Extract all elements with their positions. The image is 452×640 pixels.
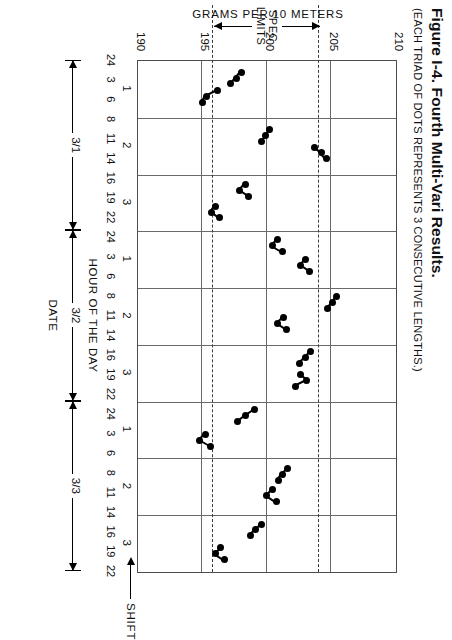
shift-number-1: 1 <box>121 85 133 91</box>
triad-10-dot-1 <box>307 348 314 355</box>
spec-limit-line-upper <box>318 5 319 572</box>
hour-tick-14: 14 <box>105 329 117 341</box>
date-span-label: 3/3 <box>70 474 82 498</box>
triad-12-dot-2 <box>242 412 249 419</box>
hour-tick-5: 14 <box>105 152 117 164</box>
plot-area <box>137 60 397 573</box>
value-gridline-195 <box>202 61 203 572</box>
shift-number-4: 1 <box>121 256 133 262</box>
value-gridline-205 <box>331 61 332 572</box>
y-tick-190: 190 <box>135 32 147 51</box>
shift-number-2: 2 <box>121 142 133 148</box>
hour-tick-8: 22 <box>105 211 117 223</box>
date-span-label: 3/1 <box>70 133 82 157</box>
y-axis-label: GRAMS PER 10 METERS <box>192 8 343 20</box>
date-span-3-1: 3/1 <box>65 60 81 230</box>
triad-3-dot-3 <box>323 155 330 162</box>
triad-9-dot-1 <box>280 314 287 321</box>
hour-tick-7: 19 <box>105 191 117 203</box>
triad-7-dot-2 <box>297 262 304 269</box>
date-span-3-3: 3/3 <box>65 401 81 571</box>
triad-17-dot-3 <box>221 556 228 563</box>
date-span-arrow-right <box>69 393 77 401</box>
shift-number-9: 3 <box>121 539 133 545</box>
triad-0-dot-1 <box>238 69 245 76</box>
hour-tick-13: 11 <box>105 310 117 321</box>
triad-4-dot-3 <box>245 193 252 200</box>
triad-4-dot-1 <box>242 181 249 188</box>
triad-12-dot-1 <box>251 406 258 413</box>
shift-number-6: 3 <box>121 369 133 375</box>
triad-5-dot-2 <box>208 209 215 216</box>
hour-tick-0: 24 <box>105 54 117 66</box>
date-span-arrow-left <box>69 60 77 68</box>
triad-13-dot-3 <box>207 443 214 450</box>
triad-14-dot-3 <box>275 477 282 484</box>
hour-tick-12: 8 <box>105 293 117 299</box>
triad-9-dot-3 <box>283 326 290 333</box>
hour-tick-26: 22 <box>105 565 117 577</box>
triad-9-dot-2 <box>274 320 281 327</box>
hour-tick-1: 3 <box>105 77 117 83</box>
shift-annotation-arrowhead <box>127 557 135 565</box>
date-span-arrow-right <box>69 563 77 571</box>
figure-title: Figure I-4. Fourth Multi-Vari Results. <box>428 8 446 372</box>
date-span-3-2: 3/2 <box>65 230 81 400</box>
figure-subtitle: (EACH TRIAD OF DOTS REPRESENTS 3 CONSECU… <box>412 8 424 372</box>
shift-separator-4 <box>138 288 396 289</box>
hour-tick-25: 19 <box>105 545 117 557</box>
y-tick-205: 205 <box>329 32 341 51</box>
hour-tick-6: 16 <box>105 172 117 184</box>
date-span-label: 3/2 <box>70 303 82 327</box>
spec-limits-arrow-up <box>312 22 320 30</box>
hour-tick-23: 14 <box>105 506 117 518</box>
shift-separator-8 <box>138 515 396 516</box>
triad-2-dot-3 <box>258 138 265 145</box>
triad-15-dot-3 <box>273 498 280 505</box>
triad-6-dot-3 <box>279 248 286 255</box>
hour-tick-22: 11 <box>105 487 117 498</box>
triad-11-dot-2 <box>304 377 311 384</box>
triad-5-dot-3 <box>216 214 223 221</box>
hour-tick-24: 16 <box>105 526 117 538</box>
date-axis-label: DATE <box>47 299 59 331</box>
hour-tick-21: 8 <box>105 470 117 476</box>
triad-14-dot-1 <box>284 465 291 472</box>
hour-tick-9: 24 <box>105 231 117 243</box>
date-span-arrow-right <box>69 222 77 230</box>
triad-16-dot-3 <box>247 532 254 539</box>
hour-tick-20: 6 <box>105 450 117 456</box>
date-span-arrow-left <box>69 401 77 409</box>
shift-separator-1 <box>138 118 396 119</box>
shift-number-3: 3 <box>121 199 133 205</box>
triad-12-dot-3 <box>234 418 241 425</box>
hour-axis-label: HOUR OF THE DAY <box>87 259 99 373</box>
shift-number-8: 2 <box>121 483 133 489</box>
shift-separator-5 <box>138 345 396 346</box>
shift-annotation-label: SHIFT <box>125 603 137 640</box>
y-tick-210: 210 <box>393 32 405 51</box>
triad-11-dot-3 <box>292 383 299 390</box>
triad-13-dot-1 <box>202 431 209 438</box>
triad-7-dot-3 <box>306 268 313 275</box>
figure-heading: Figure I-4. Fourth Multi-Vari Results. (… <box>412 8 446 372</box>
hour-tick-2: 6 <box>105 96 117 102</box>
shift-separator-2 <box>138 175 396 176</box>
hour-tick-16: 19 <box>105 368 117 380</box>
shift-separator-7 <box>138 458 396 459</box>
triad-6-dot-2 <box>269 242 276 249</box>
hour-tick-18: 24 <box>105 408 117 420</box>
triad-1-dot-1 <box>214 87 221 94</box>
triad-0-dot-3 <box>227 80 234 87</box>
hour-tick-3: 8 <box>105 116 117 122</box>
hour-tick-15: 16 <box>105 349 117 361</box>
triad-10-dot-2 <box>302 354 309 361</box>
y-tick-200: 200 <box>264 32 276 51</box>
shift-separator-3 <box>138 231 396 232</box>
shift-number-5: 2 <box>121 312 133 318</box>
shift-number-7: 1 <box>121 426 133 432</box>
hour-tick-4: 11 <box>105 133 117 144</box>
shift-separator-6 <box>138 402 396 403</box>
triad-1-dot-3 <box>199 99 206 106</box>
